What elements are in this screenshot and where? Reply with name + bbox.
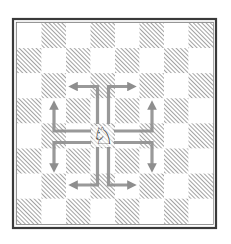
light-square: [140, 48, 165, 73]
light-square: [42, 48, 67, 73]
light-square: [164, 174, 189, 199]
light-square: [189, 48, 214, 73]
light-square: [17, 23, 42, 48]
dark-square: [66, 199, 91, 224]
dark-square: [164, 199, 189, 224]
dark-square: [189, 123, 214, 148]
dark-square: [115, 199, 140, 224]
light-square: [91, 199, 116, 224]
light-square: [189, 149, 214, 174]
dark-square: [164, 149, 189, 174]
light-square: [164, 73, 189, 98]
light-square: [66, 23, 91, 48]
dark-square: [189, 73, 214, 98]
dark-square: [66, 48, 91, 73]
light-square: [164, 23, 189, 48]
knight-moves-diagram: ♘: [0, 0, 231, 244]
dark-square: [42, 174, 67, 199]
light-square: [115, 23, 140, 48]
dark-square: [164, 48, 189, 73]
dark-square: [189, 23, 214, 48]
light-square: [17, 174, 42, 199]
light-square: [17, 123, 42, 148]
light-square: [164, 123, 189, 148]
light-square: [189, 199, 214, 224]
light-square: [42, 199, 67, 224]
dark-square: [115, 149, 140, 174]
light-square: [140, 199, 165, 224]
dark-square: [17, 149, 42, 174]
dark-square: [66, 149, 91, 174]
dark-square: [66, 98, 91, 123]
dark-square: [140, 73, 165, 98]
light-square: [17, 73, 42, 98]
dark-square: [42, 23, 67, 48]
board-squares: [17, 23, 213, 224]
dark-square: [17, 199, 42, 224]
dark-square: [17, 98, 42, 123]
light-square: [91, 149, 116, 174]
dark-square: [189, 174, 214, 199]
light-square: [115, 123, 140, 148]
light-square: [66, 123, 91, 148]
light-square: [91, 98, 116, 123]
light-square: [91, 48, 116, 73]
dark-square: [17, 48, 42, 73]
dark-square: [42, 73, 67, 98]
knight-piece: ♘: [92, 122, 114, 150]
light-square: [189, 98, 214, 123]
dark-square: [140, 23, 165, 48]
dark-square: [164, 98, 189, 123]
dark-square: [91, 23, 116, 48]
white-knight-icon: ♘: [92, 122, 114, 150]
dark-square: [115, 98, 140, 123]
dark-square: [115, 48, 140, 73]
dark-square: [140, 174, 165, 199]
